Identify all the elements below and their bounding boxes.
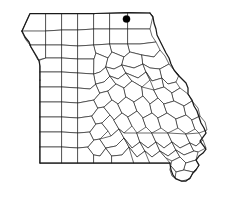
county bbox=[94, 13, 110, 29]
county bbox=[40, 58, 62, 72]
county bbox=[78, 59, 94, 74]
county bbox=[40, 117, 62, 132]
county bbox=[110, 29, 128, 44]
map-svg bbox=[0, 0, 226, 199]
county bbox=[40, 147, 62, 163]
county bbox=[62, 87, 78, 103]
county bbox=[62, 147, 78, 163]
county bbox=[128, 13, 153, 29]
county bbox=[62, 72, 78, 88]
county bbox=[78, 45, 96, 59]
county bbox=[46, 45, 62, 58]
county bbox=[62, 58, 78, 73]
county bbox=[94, 29, 110, 45]
county-layer bbox=[22, 13, 207, 181]
county bbox=[62, 45, 78, 59]
county bbox=[46, 30, 62, 45]
county bbox=[40, 132, 62, 147]
county bbox=[40, 87, 62, 102]
county bbox=[62, 14, 78, 31]
county bbox=[46, 14, 62, 32]
county bbox=[62, 30, 78, 46]
missouri-county-map bbox=[0, 0, 226, 199]
county bbox=[40, 102, 62, 117]
county bbox=[78, 14, 94, 31]
county bbox=[62, 102, 78, 118]
county bbox=[62, 132, 78, 148]
location-marker-dot bbox=[123, 15, 130, 22]
county bbox=[40, 72, 62, 87]
county bbox=[62, 117, 78, 133]
county bbox=[78, 29, 94, 46]
county bbox=[128, 29, 156, 44]
